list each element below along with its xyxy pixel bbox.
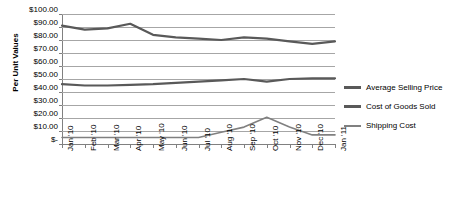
x-tick-label: Jul '10: [203, 128, 212, 151]
y-tick-label: $20.00: [18, 110, 58, 118]
x-axis-tick: [85, 144, 86, 148]
legend-item[interactable]: Shipping Cost: [344, 116, 456, 135]
legend-swatch-icon: [344, 105, 361, 108]
legend-item[interactable]: Average Selling Price: [344, 78, 456, 97]
legend-swatch-icon: [344, 125, 361, 127]
legend-label: Shipping Cost: [366, 121, 416, 130]
x-tick-label: Feb '10: [89, 125, 98, 151]
x-tick-label: Oct '10: [271, 126, 280, 151]
x-tick-label: Apr '10: [134, 126, 143, 151]
y-tick-label: $40.00: [18, 84, 58, 92]
x-axis-tick: [267, 144, 268, 148]
y-tick-label: $60.00: [18, 58, 58, 66]
x-tick-label: Dec '10: [316, 124, 325, 151]
x-axis-tick: [244, 144, 245, 148]
x-axis-tick: [199, 144, 200, 148]
y-tick-label: $70.00: [18, 45, 58, 53]
x-tick-label: Aug '10: [225, 124, 234, 151]
series-line: [62, 78, 335, 85]
x-tick-label: Jun '10: [180, 125, 189, 151]
legend-item[interactable]: Cost of Goods Sold: [344, 97, 456, 116]
x-axis-tick-labels: Jan '10Feb '10Mar '10Apr '10May '10Jun '…: [62, 150, 335, 198]
y-axis-tick-labels: $100.00$90.00$80.00$70.00$60.00$50.00$40…: [18, 10, 58, 144]
x-axis-tick: [108, 144, 109, 148]
y-tick-label: $80.00: [18, 32, 58, 40]
legend-label: Cost of Goods Sold: [366, 102, 435, 111]
x-tick-label: Mar '10: [112, 125, 121, 151]
x-axis-tick: [130, 144, 131, 148]
x-axis-tick: [335, 144, 336, 148]
x-axis-tick: [312, 144, 313, 148]
x-axis-tick: [221, 144, 222, 148]
x-axis-tick: [176, 144, 177, 148]
series-line: [62, 24, 335, 44]
legend-swatch-icon: [344, 86, 361, 89]
y-tick-label: $100.00: [18, 6, 58, 14]
y-tick-label: $-: [18, 136, 58, 144]
x-tick-label: May '10: [157, 123, 166, 151]
legend-label: Average Selling Price: [366, 83, 442, 92]
y-tick-label: $10.00: [18, 123, 58, 131]
x-tick-label: Sep '10: [248, 124, 257, 151]
y-tick-label: $50.00: [18, 71, 58, 79]
x-axis-tick: [153, 144, 154, 148]
line-chart: Per Unit Values $100.00$90.00$80.00$70.0…: [0, 0, 459, 199]
y-tick-label: $90.00: [18, 19, 58, 27]
x-axis-tick: [62, 144, 63, 148]
x-tick-label: Jan '10: [66, 125, 75, 151]
y-tick-label: $30.00: [18, 97, 58, 105]
chart-legend: Average Selling PriceCost of Goods SoldS…: [344, 78, 456, 135]
x-axis-tick: [290, 144, 291, 148]
x-tick-label: Nov '10: [294, 124, 303, 151]
